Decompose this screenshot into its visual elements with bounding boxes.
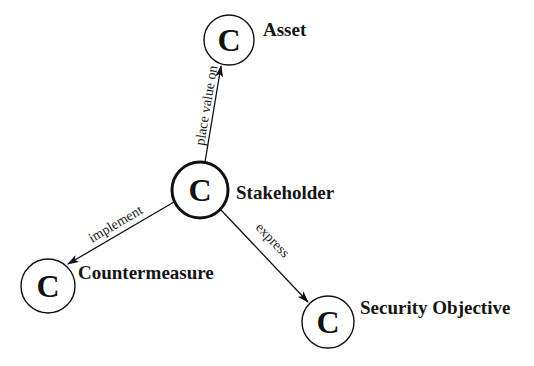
node-label-security-objective: Security Objective xyxy=(360,297,510,318)
edge-label-express: express xyxy=(253,220,293,261)
node-asset[interactable]: C Asset xyxy=(204,15,307,65)
node-stakeholder[interactable]: C Stakeholder xyxy=(172,162,335,218)
edge-implement: implement xyxy=(68,202,174,264)
class-glyph: C xyxy=(188,172,211,208)
class-glyph: C xyxy=(36,268,59,304)
node-countermeasure[interactable]: C Countermeasure xyxy=(21,259,214,313)
edge-place-value-on: place value on xyxy=(192,64,221,162)
node-label-asset: Asset xyxy=(263,19,307,40)
class-glyph: C xyxy=(316,304,339,340)
class-glyph: C xyxy=(217,22,240,58)
edge-express: express xyxy=(221,210,308,302)
node-security-objective[interactable]: C Security Objective xyxy=(302,296,510,348)
node-label-countermeasure: Countermeasure xyxy=(78,262,214,283)
edge-label-place-value-on: place value on xyxy=(192,64,220,146)
node-label-stakeholder: Stakeholder xyxy=(236,182,335,203)
concept-diagram: place value on implement express C Asset… xyxy=(0,0,534,366)
